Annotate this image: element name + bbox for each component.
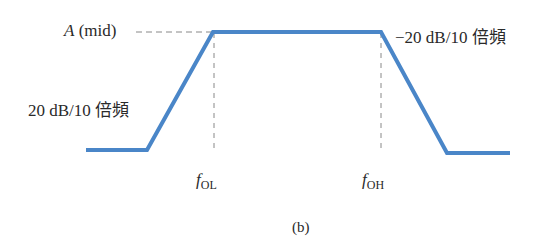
fall-slope-label: −20 dB/10 倍頻 xyxy=(395,23,506,48)
caption: (b) xyxy=(292,219,310,236)
rise-slope-label: 20 dB/10 倍頻 xyxy=(28,96,129,121)
f-high-label: fOH xyxy=(362,170,384,190)
response-curve xyxy=(86,32,510,153)
mid-gain-label: A (mid) xyxy=(64,21,116,41)
f-low-label: fOL xyxy=(196,170,217,190)
